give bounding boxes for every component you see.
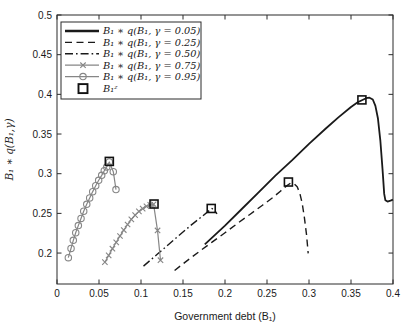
x-tick-label: 0.05	[89, 288, 109, 299]
legend-entry-0-label: B₁ ∗ q(B₁, γ = 0.05)	[102, 25, 201, 36]
legend-entry-5-label: B₁ᶻ	[102, 83, 118, 94]
legend-entry-3-label: B₁ ∗ q(B₁, γ = 0.75)	[102, 60, 201, 71]
x-tick-label: 0.4	[386, 288, 400, 299]
y-tick-label: 0.35	[33, 129, 53, 140]
y-tick-label: 0.4	[38, 89, 52, 100]
y-tick-label: 0.3	[38, 168, 52, 179]
x-tick-label: 0.25	[257, 288, 277, 299]
y-tick-label: 0.2	[38, 248, 52, 259]
legend-entry-4-label: B₁ ∗ q(B₁, γ = 0.95)	[102, 71, 201, 82]
x-tick-label: 0.15	[173, 288, 193, 299]
y-tick-label: 0.5	[38, 10, 52, 21]
y-tick-label: 0.45	[33, 49, 53, 60]
x-tick-label: 0	[54, 288, 60, 299]
x-axis-label: Government debt (B₁)	[57, 310, 393, 322]
laffer-curve-figure: 00.050.10.150.20.250.30.350.40.20.250.30…	[0, 0, 411, 334]
x-tick-label: 0.1	[134, 288, 148, 299]
legend-entry-1-label: B₁ ∗ q(B₁, γ = 0.25)	[102, 37, 201, 48]
x-tick-label: 0.35	[341, 288, 361, 299]
x-tick-label: 0.2	[218, 288, 232, 299]
x-tick-label: 0.3	[302, 288, 316, 299]
chart-canvas: 00.050.10.150.20.250.30.350.40.20.250.30…	[0, 0, 411, 334]
y-tick-label: 0.25	[33, 208, 53, 219]
legend-entry-2-label: B₁ ∗ q(B₁, γ = 0.50)	[102, 48, 201, 59]
y-axis-label: B₁ ∗ q(B₁,γ)	[3, 82, 15, 217]
